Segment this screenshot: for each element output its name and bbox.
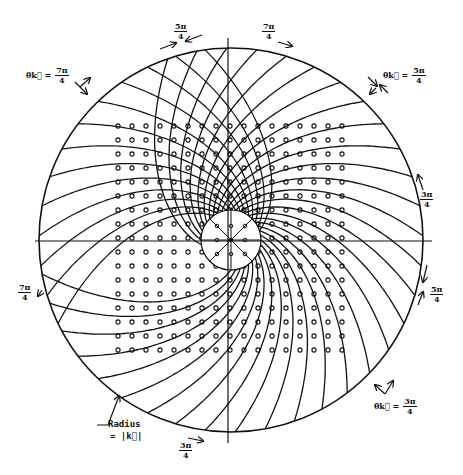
denominator: 4 (406, 407, 414, 416)
denominator: 4 (182, 451, 190, 460)
label-theta-7pi4: θk⃗ = 7π4 (26, 66, 69, 85)
arrow-icon (278, 42, 292, 46)
radius-label: Radius = |k⃗| (108, 418, 143, 442)
label-theta-3pi4: θk⃗ = 3π4 (374, 397, 417, 416)
fraction: 7π4 (55, 66, 68, 85)
arrow-icon (186, 35, 202, 41)
label-3pi4-bottom: 3π4 (179, 441, 192, 460)
denominator: 4 (415, 76, 423, 85)
denominator: 4 (58, 76, 66, 85)
denominator: 4 (265, 32, 273, 41)
arrow-icon (368, 77, 377, 86)
label-7pi4-top: 7π4 (262, 22, 275, 41)
arrow-icon (418, 292, 423, 305)
label-theta-5pi4: θk⃗ = 5π4 (383, 66, 426, 85)
arrow-icon (418, 175, 423, 190)
denominator: 4 (433, 295, 441, 304)
denominator: 4 (21, 293, 29, 302)
label-5pi4-right: 5π4 (430, 285, 443, 304)
arrow-icon (75, 82, 87, 94)
arrow-icon (160, 43, 176, 49)
arrow-icon (385, 381, 393, 394)
denominator: 4 (423, 200, 431, 209)
label-7pi4-left: 7π4 (18, 283, 31, 302)
arrow-icon (80, 78, 90, 87)
arrow-icon (38, 290, 42, 296)
arrow-icon (370, 88, 376, 94)
radius-label-line1: Radius (108, 418, 143, 430)
radius-label-line2: = |k⃗| (108, 430, 143, 442)
denominator: 4 (177, 32, 185, 41)
label-prefix: θk⃗ = (26, 71, 51, 80)
label-prefix: θk⃗ = (374, 402, 399, 411)
arrow-icon (380, 85, 388, 93)
inner-spokes (201, 210, 261, 270)
label-prefix: θk⃗ = (383, 71, 408, 80)
label-3pi4-right: 3π4 (420, 190, 433, 209)
arrow-icon (423, 265, 427, 282)
label-5pi4-top: 5π4 (174, 22, 187, 41)
arrow-icon (375, 385, 385, 394)
